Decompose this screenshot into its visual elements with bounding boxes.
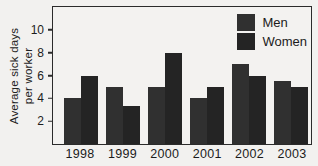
bar-women-2001 bbox=[207, 87, 224, 144]
legend: MenWomen bbox=[237, 14, 307, 52]
legend-swatch-men bbox=[237, 14, 255, 31]
x-tick-label-2000: 2000 bbox=[148, 147, 182, 161]
y-tick-label-8: 8 bbox=[37, 47, 44, 59]
y-axis-title-line1: Average sick days bbox=[7, 28, 21, 125]
bar-women-2000 bbox=[165, 53, 182, 144]
bar-women-1999 bbox=[123, 106, 140, 144]
bar-men-2002 bbox=[232, 64, 249, 144]
x-tick-label-2002: 2002 bbox=[233, 147, 267, 161]
bar-men-1998 bbox=[64, 98, 81, 144]
legend-swatch-women bbox=[237, 33, 255, 50]
bar-women-2002 bbox=[249, 76, 266, 145]
bar-group-2000 bbox=[148, 7, 182, 144]
legend-item-men: Men bbox=[237, 14, 307, 31]
y-axis-title: Average sick days per worker bbox=[7, 28, 36, 125]
legend-item-women: Women bbox=[237, 33, 307, 50]
x-tick-label-1998: 1998 bbox=[63, 147, 97, 161]
legend-label-men: Men bbox=[262, 15, 287, 30]
y-tick-label-10: 10 bbox=[31, 24, 44, 36]
bar-women-2003 bbox=[291, 87, 308, 144]
y-tick-label-4: 4 bbox=[37, 92, 44, 104]
y-tick-label-2: 2 bbox=[37, 115, 44, 127]
x-tick-label-2003: 2003 bbox=[275, 147, 309, 161]
x-axis-labels: 199819992000200120022003 bbox=[52, 147, 312, 161]
bar-men-2000 bbox=[148, 87, 165, 144]
bar-men-1999 bbox=[106, 87, 123, 144]
bar-group-1998 bbox=[64, 7, 98, 144]
y-axis-title-line2: per worker bbox=[21, 28, 35, 125]
bar-women-1998 bbox=[81, 76, 98, 145]
bar-group-1999 bbox=[106, 7, 140, 144]
bar-men-2001 bbox=[190, 98, 207, 144]
plot-area: 246810 MenWomen bbox=[52, 6, 312, 145]
y-tick-label-6: 6 bbox=[37, 70, 44, 82]
legend-label-women: Women bbox=[262, 34, 307, 49]
x-tick-label-1999: 1999 bbox=[105, 147, 139, 161]
sick-days-bar-chart: Average sick days per worker 246810 MenW… bbox=[0, 0, 318, 166]
bar-men-2003 bbox=[274, 81, 291, 144]
x-tick-label-2001: 2001 bbox=[190, 147, 224, 161]
bar-group-2001 bbox=[190, 7, 224, 144]
